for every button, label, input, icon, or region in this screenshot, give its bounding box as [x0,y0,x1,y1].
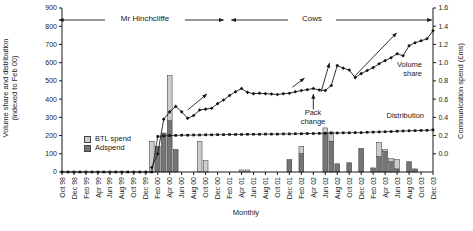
right-tick-label: 0.2 [439,132,449,139]
x-tick-label: Aug 02 [334,177,342,199]
volume-share-label: Volume share [372,61,422,78]
right-axis-title: Communication spend (£ms) [457,16,467,166]
x-tick-label: Feb 99 [83,177,90,199]
x-tick-label: Oct 98 [59,177,66,198]
chart-figure: 90080070060050040030020010001.61.41.21.0… [0,0,473,231]
left-tick-label: 100 [45,150,57,157]
x-tick-label: Apr 00 [166,177,174,198]
x-tick-label: Aug 01 [262,177,270,199]
x-tick-label: Jun 00 [178,177,185,198]
x-tick-label: Aug 03 [406,177,414,199]
x-tick-label: Apr 03 [382,177,390,198]
left-tick-label: 900 [45,4,57,11]
left-tick-label: 300 [45,114,57,121]
x-tick-label: Feb 03 [370,177,377,199]
x-tick-label: Dec 01 [286,177,293,199]
right-tick-label: 1.6 [439,4,449,11]
x-tick-label: Jun 01 [250,177,257,198]
right-tick-label: 1.4 [439,23,449,30]
x-tick-label: Dec 02 [358,177,365,199]
left-tick-label: 800 [45,23,57,30]
x-tick-label: Oct 02 [346,177,353,198]
right-tick-label: 0.6 [439,96,449,103]
x-tick-label: Aug 99 [118,177,126,199]
x-tick-label: Aug 00 [190,177,198,199]
x-tick-label: Jun 99 [106,177,113,198]
x-tick-label: Feb 01 [226,177,233,199]
right-tick-label: 0.8 [439,77,449,84]
pack-change-label: Pack change [291,109,335,126]
btl-spend-swatch-icon [84,136,91,143]
legend: BTL spend Adspend [84,135,131,153]
x-tick-label: Dec 00 [214,177,221,199]
left-tick-label: 400 [45,96,57,103]
legend-item-adspend: Adspend [84,144,131,153]
legend-label-adspend: Adspend [95,144,125,153]
x-axis-title: Monthly [216,209,276,218]
x-tick-label: Oct 99 [130,177,137,198]
x-tick-label: Dec 99 [142,177,149,199]
x-tick-label: Jun 03 [394,177,401,198]
x-tick-label: Feb 00 [154,177,161,199]
x-tick-label: Apr 01 [238,177,246,198]
campaign-label-mr-hinchcliffe: Mr Hinchcliffe [105,15,185,24]
right-tick-label: 0.4 [439,114,449,121]
x-tick-label: Jun 02 [322,177,329,198]
left-tick-label: 0 [53,168,57,175]
volume-share-line [150,29,435,169]
right-tick-label: 0.0 [439,150,449,157]
left-tick-label: 500 [45,77,57,84]
x-tick-label: Oct 01 [274,177,281,198]
campaign-label-cows: Cows [288,15,336,24]
distribution-label: Distribution [366,112,424,121]
left-tick-label: 700 [45,41,57,48]
x-tick-label: Dec 98 [71,177,78,199]
adspend-swatch-icon [84,145,91,152]
x-tick-label: Dec 03 [430,177,437,199]
left-axis-title: Volume share and distribution (indexed t… [2,8,20,168]
x-tick-label: Apr 02 [310,177,318,198]
left-tick-label: 200 [45,132,57,139]
x-tick-label: Feb 02 [298,177,305,199]
left-axis-title-line2: (indexed to Feb 00) [11,8,20,168]
right-tick-label: 1.2 [439,41,449,48]
x-tick-label: Apr 99 [95,177,103,198]
x-tick-label: Oct 00 [202,177,209,198]
x-tick-label: Oct 03 [418,177,425,198]
right-tick-label: 1.0 [439,59,449,66]
left-tick-label: 600 [45,59,57,66]
